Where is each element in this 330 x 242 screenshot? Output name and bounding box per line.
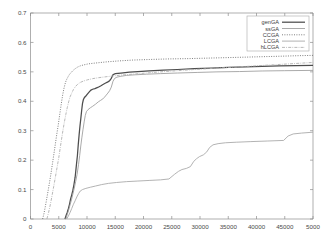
legend-label-CCGA: CCGA [263, 32, 279, 38]
x-tick-label: 10000 [78, 223, 96, 230]
legend-label-hLCGA: hLCGA [261, 44, 280, 50]
x-tick-label: 20000 [135, 223, 153, 230]
y-tick-label: 0.7 [18, 9, 27, 16]
x-tick-label: 45000 [276, 223, 294, 230]
x-tick-label: 5000 [306, 223, 320, 230]
x-tick-label: 35000 [220, 223, 238, 230]
y-tick-label: 0 [23, 215, 27, 222]
legend-label-LCGA: LCGA [264, 38, 280, 44]
y-tick-label: 0.5 [18, 68, 27, 75]
series-line-CCGA [43, 55, 313, 219]
legend-label-genGA: genGA [262, 19, 280, 25]
x-tick-label: 30000 [191, 223, 209, 230]
x-tick-label: 0 [29, 223, 33, 230]
series-line-genGA [65, 65, 313, 219]
y-tick-label: 0.3 [18, 127, 27, 134]
y-tick-label: 0.2 [18, 156, 27, 163]
legend-label-ssGA: ssGA [265, 26, 279, 32]
x-tick-label: 25000 [163, 223, 181, 230]
y-tick-label: 0.6 [18, 39, 27, 46]
x-tick-label: 5000 [52, 223, 66, 230]
series-lines [43, 55, 313, 219]
x-tick-label: 40000 [248, 223, 266, 230]
series-line-ssGA [66, 70, 313, 219]
series-line-LCGA [67, 132, 313, 219]
x-tick-label: 15000 [107, 223, 125, 230]
chart-canvas: 00.10.20.30.40.50.60.7 05000100001500020… [0, 0, 330, 242]
chart-legend: genGAssGACCGALCGAhLCGA [247, 16, 309, 51]
convergence-chart: 00.10.20.30.40.50.60.7 05000100001500020… [0, 0, 330, 242]
y-tick-label: 0.1 [18, 186, 27, 193]
y-tick-label: 0.4 [18, 97, 27, 104]
